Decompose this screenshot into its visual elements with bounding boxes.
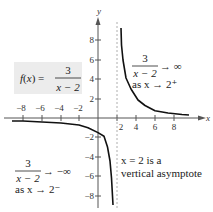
x-axis-arrow-icon (198, 116, 206, 121)
y-tick-label: −8 (84, 191, 94, 201)
y-axis-arrow-icon (96, 17, 101, 25)
x-tick-label: −6 (35, 103, 45, 113)
y-axis-label: y (96, 6, 101, 16)
y-tick-label: −4 (84, 152, 94, 162)
y-tick-label: 4 (90, 74, 95, 84)
y-tick-label: −6 (84, 171, 94, 181)
left-limit-condition: as x → 2⁻ (15, 183, 60, 195)
y-tick-label: 2 (90, 94, 95, 104)
right-limit-condition: as x → 2⁺ (132, 78, 177, 90)
formula-lhs: f(x) = (20, 72, 44, 85)
asymptote-note-line2: vertical asymptote (121, 167, 202, 179)
formula-numerator: 3 (65, 64, 71, 76)
x-tick-label: −8 (16, 103, 26, 113)
y-tick-label: −2 (84, 132, 94, 142)
formula-denominator: x − 2 (55, 81, 80, 93)
x-tick-label: −2 (73, 103, 83, 113)
x-tick-label: 8 (172, 122, 177, 132)
x-tick-label: 2 (119, 122, 124, 132)
y-tick-label: 6 (90, 55, 95, 65)
x-tick-label: 4 (134, 122, 139, 132)
x-axis-label: x (205, 113, 210, 123)
x-tick-label: 6 (153, 122, 158, 132)
left-limit-numerator: 3 (25, 157, 31, 169)
right-limit-arrow: → ∞ (160, 60, 182, 72)
left-limit-arrow: → −∞ (43, 165, 71, 177)
x-tick-label: −4 (54, 103, 64, 113)
y-tick-label: 8 (90, 35, 95, 45)
function-graph: −8 −6 −4 −2 2 4 6 8 8 6 4 2 −2 −4 −6 −8 … (0, 0, 213, 212)
right-limit-numerator: 3 (142, 52, 148, 64)
asymptote-note-line1: x = 2 is a (121, 154, 162, 166)
